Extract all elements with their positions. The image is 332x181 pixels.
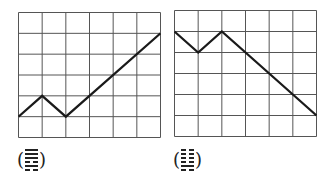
close-paren: ) [39,151,46,169]
right-grid-chart [174,10,317,137]
hexagram-icon [181,149,194,171]
broken-line [181,149,194,151]
solid-line [181,165,194,167]
close-paren: ) [195,151,202,169]
left-grid-panel [18,12,161,138]
broken-line [25,161,38,163]
left-hexagram-label: ( ) [17,149,46,171]
solid-line [25,165,38,167]
solid-line [25,149,38,151]
broken-line [25,169,38,171]
broken-line [181,153,194,155]
left-grid-chart [18,12,161,138]
right-grid-panel [174,10,317,137]
open-paren: ( [17,151,24,169]
broken-line [181,161,194,163]
open-paren: ( [173,151,180,169]
broken-line [181,169,194,171]
hexagram-icon [25,149,38,171]
right-hexagram-label: ( ) [173,149,202,171]
solid-line [25,157,38,159]
solid-line [25,153,38,155]
broken-line [181,157,194,159]
